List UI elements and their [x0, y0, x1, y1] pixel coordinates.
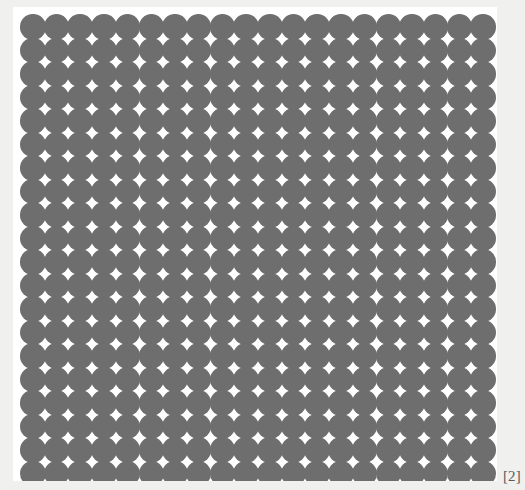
lattice-circle	[115, 390, 141, 416]
lattice-circle	[352, 202, 378, 228]
lattice-circle	[352, 249, 378, 275]
lattice-circle	[352, 414, 378, 440]
lattice-circle	[328, 367, 354, 393]
lattice-circle	[91, 390, 117, 416]
lattice-circle	[470, 320, 496, 346]
lattice-circle	[470, 461, 496, 482]
lattice-circle	[186, 202, 212, 228]
lattice-circle	[44, 343, 70, 369]
lattice-circle	[44, 155, 70, 181]
lattice-circle	[423, 273, 449, 299]
lattice-circle	[139, 273, 165, 299]
lattice-circle	[67, 461, 93, 482]
lattice-circle	[470, 226, 496, 252]
lattice-circle	[139, 461, 165, 482]
lattice-circle	[376, 343, 402, 369]
lattice-circle	[233, 14, 259, 40]
lattice-circle	[447, 179, 473, 205]
lattice-circle	[281, 132, 307, 158]
lattice-circle	[186, 273, 212, 299]
lattice-circle	[233, 461, 259, 482]
lattice-circle	[44, 437, 70, 463]
lattice-circle	[257, 249, 283, 275]
lattice-circle	[423, 132, 449, 158]
lattice-circle	[399, 273, 425, 299]
lattice-circle	[139, 343, 165, 369]
lattice-circle	[281, 414, 307, 440]
lattice-circle	[44, 179, 70, 205]
lattice-circle	[44, 85, 70, 111]
lattice-circle	[186, 461, 212, 482]
lattice-circle	[328, 132, 354, 158]
lattice-circle	[44, 414, 70, 440]
lattice-circle	[376, 85, 402, 111]
lattice-circle	[423, 367, 449, 393]
lattice-circle	[91, 155, 117, 181]
lattice-circle	[115, 226, 141, 252]
lattice-circle	[257, 437, 283, 463]
lattice-circle	[67, 273, 93, 299]
lattice-circle	[281, 343, 307, 369]
lattice-circle	[20, 437, 46, 463]
lattice-circle	[257, 273, 283, 299]
lattice-circle	[186, 85, 212, 111]
lattice-circle	[139, 61, 165, 87]
lattice-circle	[447, 61, 473, 87]
lattice-circle	[328, 320, 354, 346]
lattice-circle	[304, 367, 330, 393]
lattice-circle	[470, 343, 496, 369]
lattice-circle	[210, 85, 236, 111]
lattice-circle	[281, 179, 307, 205]
lattice-circle	[281, 461, 307, 482]
lattice-circle	[304, 132, 330, 158]
lattice-circle	[470, 390, 496, 416]
lattice-circle	[44, 61, 70, 87]
lattice-circle	[115, 179, 141, 205]
lattice-circle	[233, 320, 259, 346]
lattice-circle	[115, 273, 141, 299]
lattice-circle	[233, 179, 259, 205]
lattice-circle	[304, 390, 330, 416]
lattice-circle	[162, 14, 188, 40]
lattice-circle	[139, 202, 165, 228]
lattice-circle	[399, 437, 425, 463]
lattice-circle	[91, 226, 117, 252]
lattice-circle	[139, 132, 165, 158]
lattice-circle	[399, 14, 425, 40]
lattice-circle	[447, 155, 473, 181]
lattice-circle	[376, 461, 402, 482]
lattice-circle	[20, 226, 46, 252]
lattice-circle	[376, 38, 402, 64]
lattice-circle	[447, 414, 473, 440]
lattice-circle	[470, 296, 496, 322]
lattice-circle	[20, 14, 46, 40]
lattice-circle	[44, 132, 70, 158]
lattice-circle	[447, 343, 473, 369]
lattice-circle	[44, 390, 70, 416]
lattice-circle	[162, 390, 188, 416]
lattice-circle	[447, 38, 473, 64]
lattice-circle	[162, 155, 188, 181]
lattice-circle	[210, 273, 236, 299]
lattice-circle	[91, 14, 117, 40]
lattice-circle	[115, 461, 141, 482]
lattice-circle	[139, 390, 165, 416]
lattice-circle	[20, 85, 46, 111]
lattice-circle	[186, 390, 212, 416]
lattice-circle	[328, 437, 354, 463]
lattice-circle	[447, 132, 473, 158]
lattice-circle	[281, 390, 307, 416]
lattice-circle	[115, 414, 141, 440]
lattice-circle	[470, 61, 496, 87]
lattice-circle	[210, 343, 236, 369]
lattice-circle	[233, 437, 259, 463]
lattice-circle	[186, 38, 212, 64]
lattice-circle	[470, 179, 496, 205]
figure-panel	[13, 7, 497, 481]
lattice-circle	[328, 226, 354, 252]
lattice-circle	[423, 249, 449, 275]
lattice-circle	[470, 132, 496, 158]
lattice-circle	[162, 61, 188, 87]
lattice-circle	[139, 367, 165, 393]
lattice-circle	[399, 85, 425, 111]
